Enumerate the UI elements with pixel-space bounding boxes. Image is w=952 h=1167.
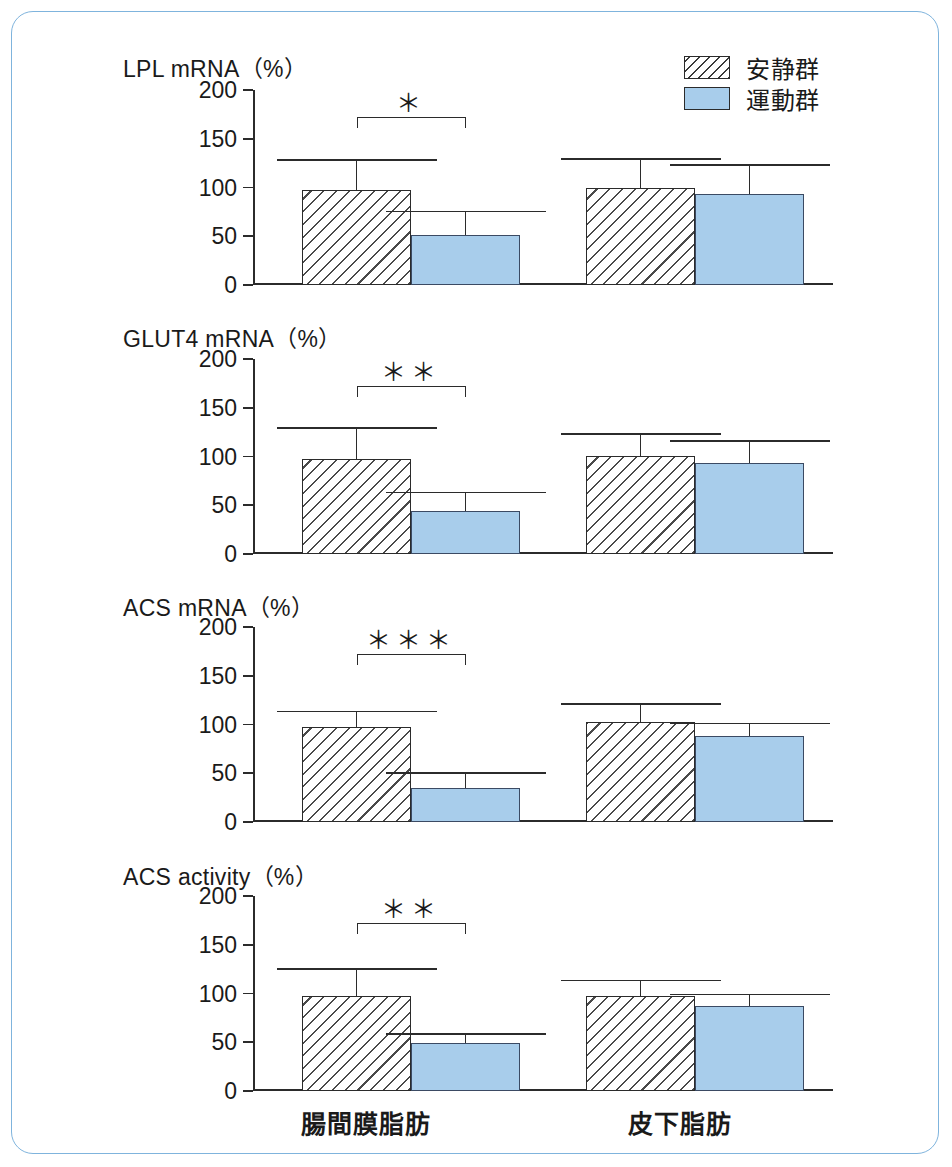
- error-bar-stem: [356, 427, 358, 459]
- error-bar-stem: [640, 980, 642, 997]
- y-axis-tick-label: 50: [211, 492, 237, 519]
- error-bar-cap: [670, 164, 830, 166]
- y-axis-tick-label: 100: [199, 443, 237, 470]
- y-axis-tick-label: 200: [199, 883, 237, 910]
- plot-area: 050100150200＊＊: [253, 359, 833, 554]
- error-bar-stem: [465, 211, 467, 235]
- bar-rest-mesenteric: [302, 996, 411, 1091]
- error-bar-cap: [277, 711, 437, 713]
- y-axis-tick-label: 150: [199, 394, 237, 421]
- error-bar-stem: [465, 772, 467, 788]
- error-bar-cap: [670, 994, 830, 996]
- y-axis-tick-label: 100: [199, 174, 237, 201]
- error-bar-cap: [386, 772, 546, 774]
- y-axis-line: [253, 896, 255, 1091]
- bar-rest-subcutaneous: [586, 996, 695, 1091]
- bar-rest-mesenteric: [302, 727, 411, 822]
- bar-rest-subcutaneous: [586, 722, 695, 822]
- error-bar-cap: [561, 703, 721, 705]
- bar-rest-subcutaneous: [586, 456, 695, 554]
- y-axis-tick-label: 100: [199, 711, 237, 738]
- y-axis-tick-label: 200: [199, 346, 237, 373]
- significance-stars: ＊＊: [381, 352, 441, 388]
- plot-area: 050100150200＊: [253, 90, 833, 285]
- error-bar-stem: [640, 433, 642, 455]
- y-axis-tick: [243, 89, 253, 91]
- plot-area: 050100150200＊＊: [253, 896, 833, 1091]
- plot-area: 050100150200＊＊＊: [253, 627, 833, 822]
- category-label-mesenteric: 腸間膜脂肪: [301, 1104, 431, 1140]
- y-axis-tick: [243, 993, 253, 995]
- y-axis-tick: [243, 724, 253, 726]
- legend-label-rest: 安静群: [746, 50, 820, 85]
- category-label-subcutaneous: 皮下脂肪: [628, 1104, 732, 1140]
- figure-frame: 安静群 運動群 LPL mRNA（%）050100150200＊GLUT4 mR…: [11, 11, 939, 1154]
- significance-stars: ＊＊＊: [366, 620, 456, 656]
- error-bar-cap: [277, 968, 437, 970]
- error-bar-cap: [561, 433, 721, 435]
- y-axis-tick: [243, 284, 253, 286]
- y-axis-tick: [243, 675, 253, 677]
- bar-exercise-subcutaneous: [695, 463, 804, 554]
- y-axis-line: [253, 359, 255, 554]
- y-axis-tick: [243, 456, 253, 458]
- y-axis-tick-label: 0: [224, 809, 237, 836]
- bar-rest-mesenteric: [302, 190, 411, 285]
- y-axis-tick: [243, 1041, 253, 1043]
- bar-rest-mesenteric: [302, 459, 411, 554]
- y-axis-tick-label: 0: [224, 272, 237, 299]
- error-bar-stem: [356, 968, 358, 996]
- error-bar-stem: [749, 440, 751, 463]
- y-axis-tick-label: 50: [211, 1029, 237, 1056]
- error-bar-cap: [277, 427, 437, 429]
- legend-swatch-rest: [684, 56, 730, 79]
- y-axis-tick: [243, 1090, 253, 1092]
- y-axis-tick-label: 150: [199, 125, 237, 152]
- bar-exercise-mesenteric: [411, 1043, 520, 1091]
- bar-exercise-subcutaneous: [695, 194, 804, 285]
- bar-exercise-subcutaneous: [695, 1006, 804, 1091]
- error-bar-stem: [356, 159, 358, 190]
- bar-exercise-mesenteric: [411, 511, 520, 554]
- error-bar-cap: [670, 440, 830, 442]
- error-bar-cap: [277, 159, 437, 161]
- y-axis-tick-label: 0: [224, 541, 237, 568]
- error-bar-stem: [749, 164, 751, 194]
- bar-exercise-subcutaneous: [695, 736, 804, 822]
- y-axis-tick: [243, 187, 253, 189]
- error-bar-cap: [561, 980, 721, 982]
- y-axis-tick-label: 200: [199, 77, 237, 104]
- error-bar-stem: [640, 158, 642, 188]
- y-axis-tick: [243, 138, 253, 140]
- y-axis-tick: [243, 553, 253, 555]
- y-axis-line: [253, 90, 255, 285]
- error-bar-cap: [386, 211, 546, 213]
- y-axis-tick-label: 200: [199, 614, 237, 641]
- error-bar-cap: [561, 158, 721, 160]
- y-axis-tick: [243, 235, 253, 237]
- error-bar-cap: [670, 723, 830, 725]
- y-axis-tick-label: 100: [199, 980, 237, 1007]
- y-axis-tick: [243, 358, 253, 360]
- y-axis-tick-label: 50: [211, 760, 237, 787]
- y-axis-tick: [243, 821, 253, 823]
- y-axis-tick: [243, 944, 253, 946]
- y-axis-tick: [243, 626, 253, 628]
- y-axis-tick-label: 150: [199, 662, 237, 689]
- error-bar-cap: [386, 1033, 546, 1035]
- y-axis-tick: [243, 407, 253, 409]
- error-bar-stem: [749, 994, 751, 1007]
- error-bar-stem: [356, 711, 358, 728]
- y-axis-tick: [243, 772, 253, 774]
- bar-rest-subcutaneous: [586, 188, 695, 285]
- y-axis-line: [253, 627, 255, 822]
- error-bar-stem: [465, 492, 467, 512]
- error-bar-stem: [640, 703, 642, 722]
- bar-exercise-mesenteric: [411, 788, 520, 822]
- error-bar-cap: [386, 492, 546, 494]
- y-axis-tick-label: 0: [224, 1078, 237, 1105]
- error-bar-stem: [749, 723, 751, 737]
- significance-stars: ＊＊: [381, 889, 441, 925]
- significance-stars: ＊: [396, 83, 426, 119]
- bar-exercise-mesenteric: [411, 235, 520, 285]
